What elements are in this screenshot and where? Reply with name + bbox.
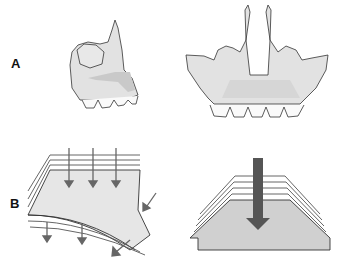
diagram-canvas <box>0 0 339 261</box>
maxilla-lateral-illustration <box>70 20 138 108</box>
maxilla-frontal-illustration <box>186 5 328 117</box>
